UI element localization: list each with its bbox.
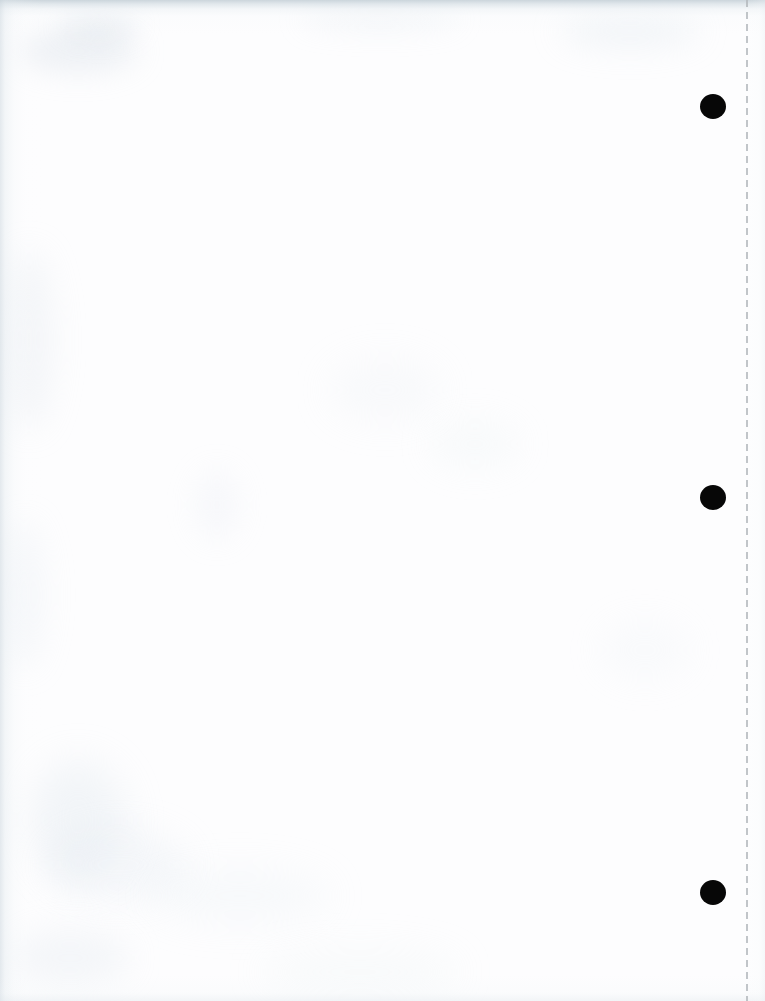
vertical-dashed-tear-line (746, 0, 748, 1001)
punch-hole-middle (700, 485, 726, 510)
punch-hole-top (700, 94, 726, 119)
paper-surface (0, 0, 765, 1001)
scanned-page (0, 0, 765, 1001)
punch-hole-bottom (700, 880, 726, 905)
